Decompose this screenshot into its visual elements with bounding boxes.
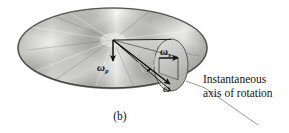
omega-p-symbol: ω	[97, 61, 105, 73]
omega-symbol: ω	[163, 83, 170, 94]
annotation-line-2: axis of rotation	[203, 87, 289, 101]
omega-p-subscript: p	[105, 67, 108, 74]
omega-s-symbol: ω	[160, 45, 168, 57]
omega-s-label: ωs	[160, 46, 171, 59]
annotation-line-1: Instantaneous	[203, 73, 289, 87]
omega-p-label: ωp	[97, 62, 109, 75]
omega-s-subscript: s	[168, 51, 171, 58]
precession-figure: ωp ωs ω Instantaneous axis of rotation (…	[0, 0, 289, 133]
figure-caption: (b)	[0, 110, 240, 122]
omega-label: ω	[163, 84, 170, 94]
instantaneous-axis-annotation: Instantaneous axis of rotation	[203, 73, 289, 100]
